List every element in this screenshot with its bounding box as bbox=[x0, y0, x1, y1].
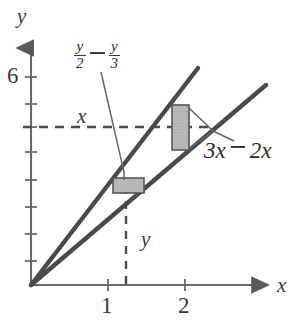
lines-label-second: 2x bbox=[250, 138, 272, 164]
line-2x bbox=[31, 85, 266, 285]
lines-difference-label: 3x 2x bbox=[204, 138, 271, 164]
fraction-left-numerator: y bbox=[74, 39, 86, 55]
fraction-y-over-3: y 3 bbox=[109, 39, 121, 72]
fraction-right-denominator: 3 bbox=[109, 55, 121, 72]
y-axis bbox=[25, 48, 37, 285]
minus-sign-icon bbox=[90, 52, 105, 54]
y-axis-label: y bbox=[17, 6, 26, 27]
x-tick-label-1: 1 bbox=[101, 294, 113, 317]
fraction-y-over-2: y 2 bbox=[74, 39, 86, 72]
x-axis-label: x bbox=[277, 275, 286, 296]
dashed-horizontal-label: x bbox=[77, 106, 86, 127]
lines-label-first: 3x bbox=[204, 138, 226, 164]
x-tick-label-2: 2 bbox=[178, 294, 190, 317]
fraction-right-numerator: y bbox=[109, 39, 121, 55]
fraction-difference-label: y 2 y 3 bbox=[74, 38, 120, 71]
lower-difference-rectangle bbox=[113, 178, 144, 193]
y-tick-label-6: 6 bbox=[7, 64, 19, 87]
line-3x bbox=[31, 68, 198, 285]
x-axis bbox=[31, 279, 268, 291]
fraction-left-denominator: 2 bbox=[74, 55, 86, 72]
upper-difference-rectangle bbox=[172, 105, 189, 150]
math-figure: y x 6 1 2 x y y 2 y 3 3x 2x bbox=[0, 0, 301, 321]
minus-sign-icon-2 bbox=[231, 146, 245, 148]
dashed-vertical-label: y bbox=[141, 229, 150, 250]
